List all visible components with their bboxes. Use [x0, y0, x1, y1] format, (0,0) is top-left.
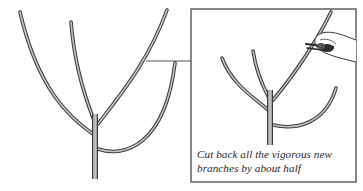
caption-line-1: Cut back all the vigorous new	[197, 147, 353, 161]
hand-with-shears-icon	[306, 32, 356, 62]
branch-left	[20, 12, 93, 134]
caption-line-2: branches by about half	[197, 161, 353, 175]
tree-after	[222, 12, 336, 145]
branch-right-cutting	[273, 12, 331, 100]
branch-right	[98, 10, 167, 124]
branch-center-pruned	[253, 51, 269, 98]
caption: Cut back all the vigorous new branches b…	[197, 147, 353, 175]
branch-center	[71, 22, 94, 120]
tree-before	[20, 10, 175, 179]
